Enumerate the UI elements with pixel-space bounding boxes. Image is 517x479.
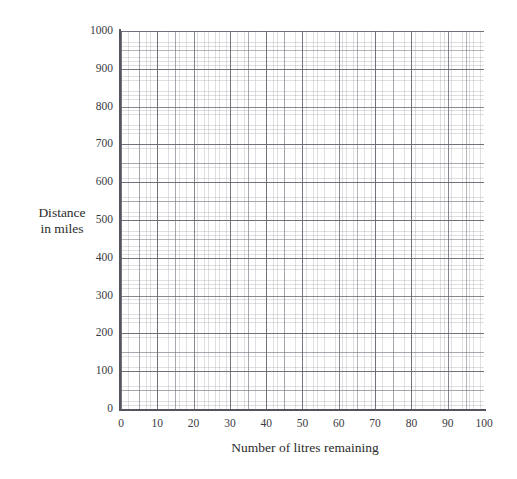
- y-tick-label-100: 100: [73, 365, 113, 377]
- chart-container: 01002003004005006007008009001000 0102030…: [0, 0, 517, 479]
- plot-area: [121, 31, 484, 409]
- x-tick-label-60: 60: [319, 418, 359, 430]
- x-tick-label-10: 10: [137, 418, 177, 430]
- y-tick-label-0: 0: [73, 403, 113, 415]
- x-tick-label-100: 100: [464, 418, 504, 430]
- x-tick-label-30: 30: [210, 418, 250, 430]
- x-tick-label-40: 40: [246, 418, 286, 430]
- y-tick-label-700: 700: [73, 138, 113, 150]
- x-tick-label-80: 80: [391, 418, 431, 430]
- y-tick-label-400: 400: [73, 252, 113, 264]
- y-tick-label-600: 600: [73, 176, 113, 188]
- x-tick-label-90: 90: [428, 418, 468, 430]
- x-tick-label-70: 70: [355, 418, 395, 430]
- y-tick-label-300: 300: [73, 290, 113, 302]
- y-tick-label-200: 200: [73, 327, 113, 339]
- x-tick-label-50: 50: [283, 418, 323, 430]
- y-tick-label-1000: 1000: [73, 25, 113, 37]
- y-tick-label-900: 900: [73, 63, 113, 75]
- x-axis-line: [119, 409, 486, 411]
- x-tick-label-20: 20: [174, 418, 214, 430]
- y-tick-label-800: 800: [73, 101, 113, 113]
- y-axis-title-line-1: Distance: [14, 205, 110, 221]
- x-axis-title: Number of litres remaining: [140, 440, 470, 456]
- y-axis-title: Distance in miles: [14, 205, 110, 237]
- x-tick-label-0: 0: [101, 418, 141, 430]
- gridlines-major: [121, 31, 484, 409]
- y-axis-title-line-2: in miles: [14, 221, 110, 237]
- y-axis-line: [119, 29, 121, 411]
